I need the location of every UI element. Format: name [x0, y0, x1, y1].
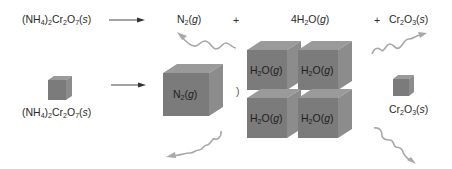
h2o-cube-label: H2O(g): [250, 112, 283, 125]
h2o-cube-label: H2O(g): [301, 64, 334, 77]
n2-cube: N2(g): [163, 63, 225, 119]
reaction-arrow-icon: [109, 18, 145, 23]
particle-arrow-icon: [111, 83, 146, 88]
paren-mark: ): [236, 86, 240, 97]
h2o-cube: H2O(g): [298, 88, 352, 138]
energy-squiggle-icon: [372, 32, 427, 54]
n2-cube-label: N2(g): [173, 88, 197, 101]
energy-squiggle-icon: [166, 131, 221, 158]
reactant-particle-label: (NH4)2Cr2O7(s): [22, 107, 91, 119]
h2o-cube: H2O(g): [247, 88, 301, 138]
cr2o3-cube-icon: [392, 74, 416, 98]
h2o-cube: H2O(g): [247, 40, 301, 90]
energy-squiggle-icon: [374, 128, 416, 164]
h2o-cube-label: H2O(g): [301, 112, 334, 125]
cr2o3-particle-label: Cr2O3(s): [389, 104, 428, 116]
h2o-cube: H2O(g): [298, 40, 352, 90]
reactant-cube-icon: [45, 74, 75, 104]
energy-squiggle-icon: [177, 32, 236, 49]
h2o-cube-label: H2O(g): [250, 64, 283, 77]
